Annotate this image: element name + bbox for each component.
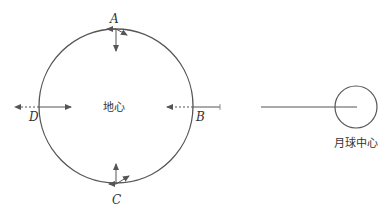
- tidal-diagram: 地心 A C D B 月球中心: [0, 0, 388, 214]
- point-c-label: C: [112, 193, 121, 207]
- point-a-label: A: [109, 12, 119, 26]
- earth-center-label: 地心: [103, 101, 125, 114]
- moon-center-label: 月球中心: [334, 136, 378, 150]
- point-b-label: B: [195, 110, 205, 124]
- point-d-label: D: [28, 110, 39, 124]
